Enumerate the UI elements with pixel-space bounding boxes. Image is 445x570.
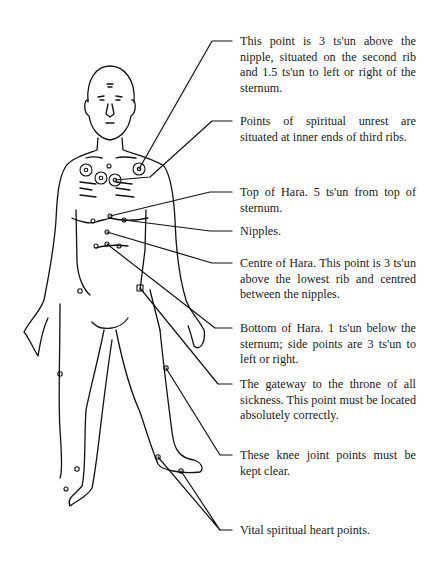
annotation-centre-of-hara: Centre of Hara. This point is 3 ts'un ab… [240, 256, 416, 303]
rib-lines [72, 157, 148, 248]
annotation-vital-heart-points: Vital spiritual heart points. [240, 523, 416, 539]
head-outline [85, 66, 136, 140]
torso-outline [24, 138, 204, 506]
annotation-bottom-of-hara: Bottom of Hara. 1 ts'un below the sternu… [240, 321, 416, 368]
annotation-second-rib-point: This point is 3 ts'un above the nipple, … [240, 34, 416, 96]
annotation-knee-joint-points: These knee joint points must be kept cle… [240, 448, 416, 479]
annotation-spiritual-unrest-points: Points of spiritual unrest are situated … [240, 114, 416, 145]
leader-lines [107, 41, 232, 530]
annotation-nipples: Nipples. [240, 224, 416, 240]
annotation-top-of-hara: Top of Hara. 5 ts'un from top of sternum… [240, 185, 416, 216]
annotation-gateway-to-throne: The gateway to the throne of all sicknes… [240, 377, 416, 424]
